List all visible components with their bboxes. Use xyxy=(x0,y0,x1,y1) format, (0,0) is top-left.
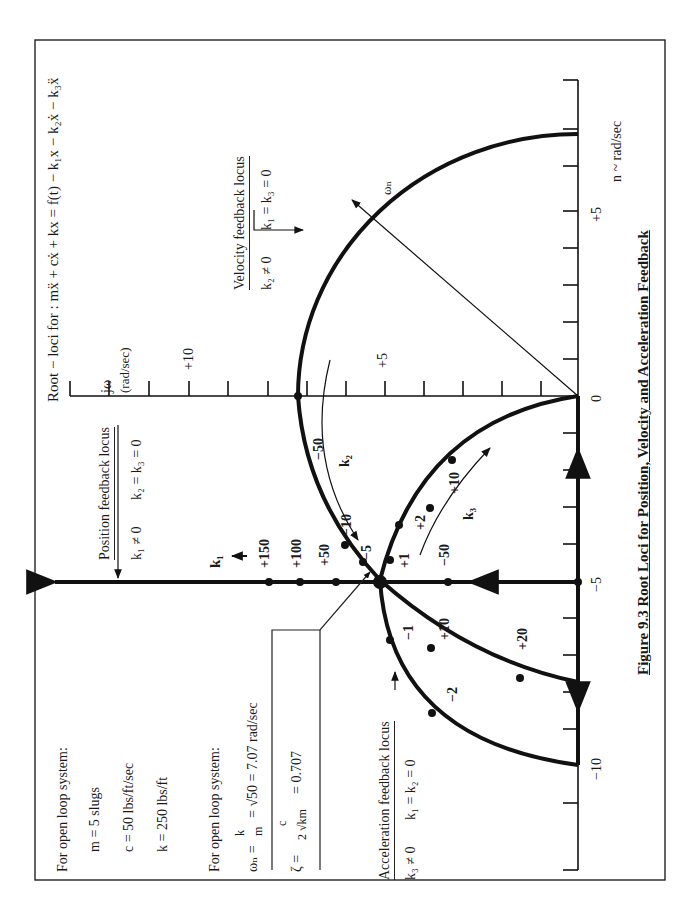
accel-gain-label-plus10-upper: +10 xyxy=(448,472,462,494)
real-tick-label-minus10: −10 xyxy=(590,758,604,780)
figure-title: Root − loci for : mẍ + cẋ + kx = f(t) − … xyxy=(46,78,61,402)
open-loop-mass: m = 5 slugs xyxy=(88,787,102,852)
acceleration-locus-condition-b: k₁ = k₂ = 0 xyxy=(404,759,418,820)
imag-axis-unit-label: (rad/sec) xyxy=(118,348,131,393)
acceleration-locus-condition-a: k₃ ≠ 0 xyxy=(404,846,418,880)
velocity-locus-condition-a: k₂ ≠ 0 xyxy=(260,256,274,290)
velocity-gain-label-minus10: −10 xyxy=(340,514,354,536)
k1-label: k₁ xyxy=(208,555,223,568)
velocity-gain-label-minus50: −50 xyxy=(312,438,326,460)
acceleration-locus-title: Acceleration feedback locus xyxy=(378,721,395,880)
omega-n-formula-num: k xyxy=(234,830,246,836)
position-gain-label-50: +50 xyxy=(318,544,332,566)
velocity-locus-condition-b: k₁ = k₃ = 0 xyxy=(260,169,274,230)
real-axis xyxy=(563,80,578,870)
position-locus-condition-a: k₁ ≠ 0 xyxy=(130,526,144,560)
real-tick-label-minus5: −5 xyxy=(590,577,604,592)
imag-tick-label-10: +10 xyxy=(182,348,196,370)
position-locus-title: Position feedback locus xyxy=(98,427,115,560)
omega-n-formula-den: m xyxy=(252,827,264,836)
real-tick-label-0: 0 xyxy=(590,395,604,402)
open-loop-damping: c = 50 lbs/ft/sec xyxy=(122,763,136,852)
open-loop-heading-2: For open loop system: xyxy=(208,747,222,872)
position-gain-label-150: +150 xyxy=(258,539,272,568)
velocity-gain-label-minus5: −5 xyxy=(360,545,374,560)
velocity-locus-title: Velocity feedback locus xyxy=(233,156,250,290)
accel-gain-label-plus1: +1 xyxy=(398,553,412,568)
position-gain-label-100: +100 xyxy=(290,539,304,568)
real-tick-label-plus5: +5 xyxy=(590,207,604,222)
velocity-locus-outer-arc xyxy=(298,134,578,396)
omega-n-label: ωₙ xyxy=(380,181,393,195)
k2-label: k₂ xyxy=(338,455,352,467)
accel-gain-label-minus2: −2 xyxy=(446,687,460,702)
root-locus-figure: Root − loci for : mẍ + cẋ + kx = f(t) − … xyxy=(0,0,687,913)
zeta-formula-den: 2 √km xyxy=(296,809,308,840)
omega-n-formula-rhs: = √50 = 7.07 rad/sec xyxy=(246,702,260,818)
position-locus-condition-b: k₂ = k₃ = 0 xyxy=(130,439,144,500)
position-gain-label-minus50: −50 xyxy=(438,544,452,566)
open-loop-stiffness: k = 250 lbs/ft xyxy=(156,777,170,852)
zeta-formula-rhs: = 0.707 xyxy=(290,751,304,794)
accel-gain-label-plus2: +2 xyxy=(414,515,428,530)
real-axis-label: n ~ rad/sec xyxy=(610,121,624,182)
zeta-formula-num: c xyxy=(276,821,288,826)
imag-tick-label-5: +5 xyxy=(376,353,390,368)
k3-label: k₃ xyxy=(462,508,476,520)
accel-gain-label-plus20: +20 xyxy=(516,628,530,650)
zeta-formula-lhs: ζ = xyxy=(290,855,304,872)
k3-direction-arrow xyxy=(420,448,490,555)
figure-caption: Figure 9.3 Root Loci for Position, Veloc… xyxy=(636,230,651,675)
k2-direction-arrow xyxy=(322,360,358,540)
acceleration-locus-lower xyxy=(380,580,578,765)
accel-gain-label-plus10-lower: +10 xyxy=(438,618,452,640)
open-loop-heading: For open loop system: xyxy=(56,747,70,872)
imag-axis-label: jω xyxy=(100,380,114,393)
accel-gain-label-minus1: −1 xyxy=(402,625,416,640)
omega-n-formula-lhs: ωₙ = xyxy=(246,845,260,872)
